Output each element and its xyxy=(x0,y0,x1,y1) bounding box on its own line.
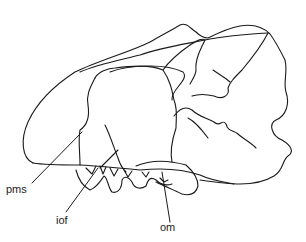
maxilla-inner xyxy=(105,125,126,172)
maxilla-front xyxy=(79,78,95,165)
cheek-line xyxy=(136,161,198,194)
tooth-5 xyxy=(142,172,149,177)
cranium-outline xyxy=(23,24,291,184)
iof-leader-line xyxy=(66,168,98,212)
orbit-outline xyxy=(95,66,177,162)
skull-diagram: pms iof om xyxy=(0,0,306,242)
tooth-3 xyxy=(110,168,118,176)
upper-suture xyxy=(80,33,268,72)
braincase-crease-1 xyxy=(213,70,230,82)
braincase-lower xyxy=(174,108,256,148)
skull-line-drawing xyxy=(0,0,306,242)
pms-leader-line xyxy=(32,132,82,183)
label-iof: iof xyxy=(56,215,68,226)
label-om: om xyxy=(160,222,175,233)
maxilla-inner-2 xyxy=(100,150,118,168)
label-pms: pms xyxy=(6,184,27,195)
om-leader-line xyxy=(162,172,170,222)
braincase-crease-2 xyxy=(188,118,208,138)
teeth-row xyxy=(76,170,172,192)
